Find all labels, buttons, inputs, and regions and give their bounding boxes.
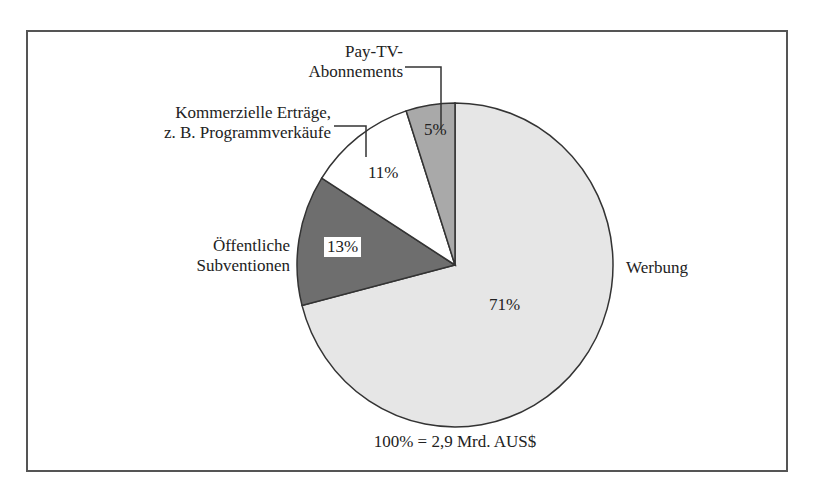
percent-paytv: 5% [424, 120, 447, 140]
percent-kommerziell: 11% [368, 163, 399, 183]
label-paytv: Pay-TV- Abonnements [300, 42, 403, 82]
label-werbung: Werbung [626, 258, 688, 278]
percent-oeffentliche: 13% [324, 237, 361, 257]
label-kommerziell-line1: Kommerzielle Erträge, [100, 103, 331, 123]
label-oeffentliche: Öffentliche Subventionen [180, 236, 290, 276]
label-oeffentliche-line2: Subventionen [180, 256, 290, 276]
percent-werbung: 71% [489, 295, 520, 315]
label-kommerziell-line2: z. B. Programmverkäufe [100, 123, 331, 143]
pie-chart [0, 0, 814, 495]
label-oeffentliche-line1: Öffentliche [180, 236, 290, 256]
label-paytv-line1: Pay-TV- [300, 42, 403, 62]
label-kommerziell: Kommerzielle Erträge, z. B. Programmverk… [100, 103, 331, 143]
total-label: 100% = 2,9 Mrd. AUS$ [330, 432, 580, 452]
label-paytv-line2: Abonnements [300, 62, 403, 82]
